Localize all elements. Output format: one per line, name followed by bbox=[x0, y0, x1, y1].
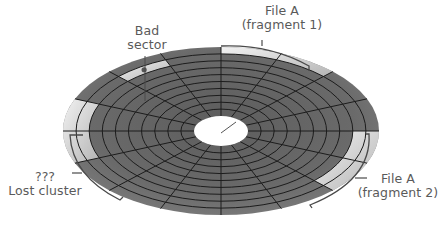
label-lost-cluster: ??? Lost cluster bbox=[0, 170, 90, 198]
spindle-hole bbox=[194, 116, 248, 146]
label-file-a-fragment-1: File A (fragment 1) bbox=[240, 4, 324, 32]
label-bad-sector: Bad sector bbox=[126, 24, 168, 52]
disk-hub bbox=[194, 116, 248, 146]
label-file-a-fragment-2: File A (fragment 2) bbox=[353, 172, 443, 200]
bad-sector-mark-icon bbox=[142, 67, 147, 72]
